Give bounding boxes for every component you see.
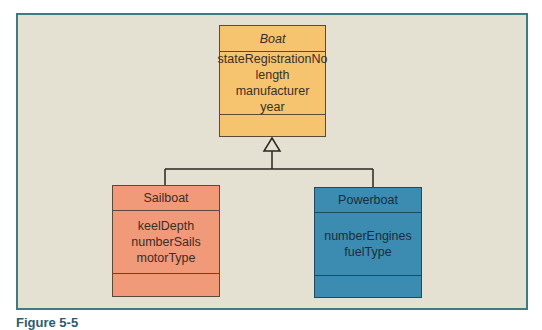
attribute: numberSails [131,234,200,250]
class-name-section: Boat [220,26,325,51]
methods-section [220,114,325,136]
class-name: Powerboat [338,193,398,207]
attribute: length [255,67,289,83]
class-name: Boat [260,32,286,46]
class-name-section: Powerboat [315,188,421,212]
class-boat[interactable]: Boat stateRegistrationNo length manufact… [219,25,326,137]
attribute: numberEngines [324,228,412,244]
figure-caption: Figure 5-5 [16,315,78,330]
attributes-section: numberEngines fuelType [315,212,421,275]
methods-section [113,273,219,296]
attribute: stateRegistrationNo [218,51,328,67]
attribute: motorType [136,250,195,266]
class-powerboat[interactable]: Powerboat numberEngines fuelType [314,187,422,298]
class-name-section: Sailboat [113,186,219,210]
attribute: keelDepth [138,218,194,234]
class-name: Sailboat [143,191,188,205]
inheritance-triangle-icon [264,138,280,151]
attribute: fuelType [344,244,391,260]
attributes-section: stateRegistrationNo length manufacturer … [220,51,325,114]
methods-section [315,275,421,297]
attributes-section: keelDepth numberSails motorType [113,210,219,273]
attribute: manufacturer [236,83,310,99]
attribute: year [260,99,284,115]
class-sailboat[interactable]: Sailboat keelDepth numberSails motorType [112,185,220,297]
